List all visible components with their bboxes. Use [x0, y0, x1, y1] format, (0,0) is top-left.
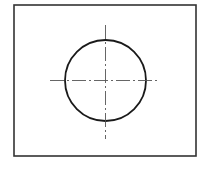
drawing-canvas	[0, 0, 210, 169]
technical-drawing	[0, 0, 210, 169]
